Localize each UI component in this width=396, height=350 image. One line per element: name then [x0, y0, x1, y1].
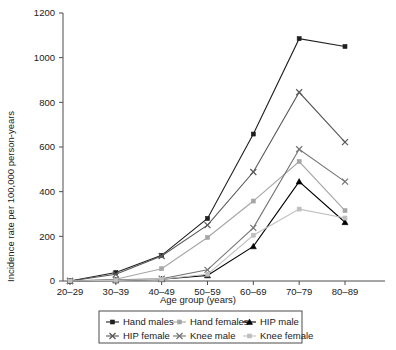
y-tick-label: 0: [50, 275, 55, 286]
data-point-marker: [160, 277, 164, 281]
data-point-marker: [297, 207, 301, 211]
series-line: [70, 182, 345, 281]
data-point-marker: [296, 89, 302, 95]
data-point-marker: [297, 37, 301, 41]
data-point-marker: [251, 199, 255, 203]
data-point-marker: [111, 320, 115, 324]
y-tick-label: 600: [39, 141, 55, 152]
data-point-marker: [342, 139, 348, 145]
chart-figure: Incidence rate per 100,000 person-years …: [0, 0, 396, 350]
data-point-marker: [343, 216, 347, 220]
data-point-marker: [178, 320, 182, 324]
x-tick-label: 80–89: [332, 286, 358, 297]
legend-label: HIP female: [123, 330, 170, 341]
legend-label: Knee female: [260, 330, 313, 341]
x-tick-label: 20–29: [57, 286, 83, 297]
y-axis-title: Incidence rate per 100,000 person-years: [5, 111, 16, 282]
data-point-marker: [251, 132, 255, 136]
y-axis-ticks: 020040060080010001200: [34, 7, 63, 286]
series-hand-females: [68, 160, 347, 283]
data-point-marker: [206, 216, 210, 220]
data-point-marker: [248, 334, 252, 338]
data-point-marker: [251, 233, 255, 237]
data-point-marker: [68, 279, 72, 283]
y-tick-label: 800: [39, 97, 55, 108]
series-line: [70, 39, 345, 281]
series-line: [70, 92, 345, 281]
legend-label: Knee male: [190, 330, 235, 341]
data-point-marker: [250, 225, 256, 231]
data-point-marker: [114, 278, 118, 282]
x-tick-label: 70–79: [286, 286, 312, 297]
data-point-marker: [205, 222, 211, 228]
series-hip-female: [67, 89, 348, 284]
y-tick-label: 1000: [34, 52, 55, 63]
data-point-marker: [343, 45, 347, 49]
data-point-marker: [297, 160, 301, 164]
data-point-marker: [206, 235, 210, 239]
legend-label: Hand males: [123, 316, 174, 327]
series-hip-male: [67, 179, 348, 284]
y-tick-label: 400: [39, 186, 55, 197]
x-tick-label: 30–39: [103, 286, 129, 297]
data-point-marker: [343, 209, 347, 213]
data-point-marker: [206, 272, 210, 276]
series-line: [70, 149, 345, 281]
series-hand-males: [68, 37, 347, 283]
y-tick-label: 1200: [34, 7, 55, 18]
x-axis-title-text: Age group (years): [160, 294, 236, 305]
data-point-marker: [342, 179, 348, 185]
y-axis-title-text: Incidence rate per 100,000 person-years: [5, 111, 16, 282]
data-point-marker: [160, 267, 164, 271]
data-point-marker: [296, 179, 302, 184]
data-point-marker: [250, 169, 256, 175]
legend-label: Hand females: [190, 316, 249, 327]
series-group: [67, 37, 348, 284]
series-line: [70, 162, 345, 281]
x-tick-label: 60–69: [240, 286, 266, 297]
series-knee-male: [67, 146, 348, 284]
y-tick-label: 200: [39, 231, 55, 242]
data-point-marker: [296, 146, 302, 152]
legend-label: HIP male: [260, 316, 299, 327]
incidence-rate-line-chart: Incidence rate per 100,000 person-years …: [0, 0, 396, 350]
